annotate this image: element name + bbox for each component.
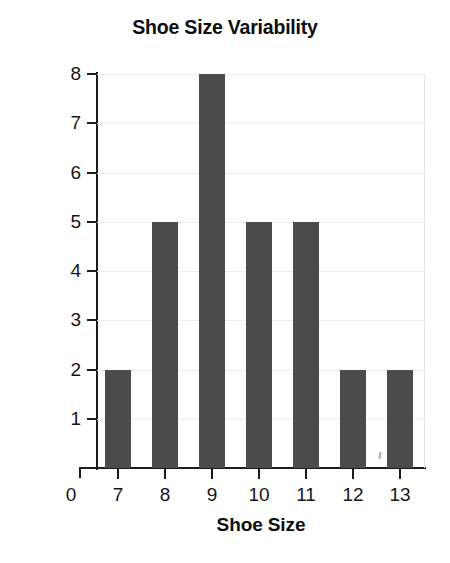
origin-label: 0	[57, 485, 85, 504]
x-tick-label: 13	[380, 485, 420, 504]
bar	[387, 370, 413, 469]
x-tick	[164, 468, 166, 479]
x-axis-title: Shoe Size	[97, 514, 425, 536]
y-tick-label: 7	[53, 113, 81, 132]
x-tick-label: 7	[98, 485, 138, 504]
y-tick	[87, 418, 97, 420]
y-tick-label: 6	[53, 163, 81, 182]
x-tick-label: 12	[333, 485, 373, 504]
x-tick	[258, 468, 260, 479]
bar	[246, 222, 272, 468]
plot-area: 12345678 78910111213	[97, 74, 425, 468]
bar	[199, 74, 225, 468]
chart-figure: Shoe Size Variability Number of Students…	[0, 0, 450, 563]
y-tick-label: 3	[53, 310, 81, 329]
y-tick-label: 8	[53, 64, 81, 83]
x-tick	[211, 468, 213, 479]
y-tick	[87, 172, 97, 174]
y-tick-label: 4	[53, 261, 81, 280]
x-tick-label: 8	[145, 485, 185, 504]
x-tick-label: 10	[239, 485, 279, 504]
gridline	[97, 74, 425, 75]
gridline	[97, 123, 425, 124]
x-tick	[399, 468, 401, 479]
chart-title: Shoe Size Variability	[0, 16, 450, 39]
y-tick	[87, 369, 97, 371]
y-tick	[87, 73, 97, 75]
x-tick	[305, 468, 307, 479]
y-axis-title: Number of Students	[13, 0, 47, 34]
x-tick-label: 9	[192, 485, 232, 504]
y-tick-label: 5	[53, 212, 81, 231]
x-tick-label: 11	[286, 485, 326, 504]
bar	[105, 370, 131, 469]
gridline	[97, 173, 425, 174]
y-tick-label: 1	[53, 409, 81, 428]
x-tick	[352, 468, 354, 479]
y-tick	[87, 319, 97, 321]
bar	[340, 370, 366, 469]
y-tick	[87, 270, 97, 272]
x-tick	[117, 468, 119, 479]
origin-tick	[79, 467, 81, 478]
bar	[152, 222, 178, 468]
bar	[293, 222, 319, 468]
y-tick	[87, 221, 97, 223]
y-tick	[87, 122, 97, 124]
y-tick-label: 2	[53, 360, 81, 379]
y-axis-title-text: Number of Students	[13, 0, 47, 34]
